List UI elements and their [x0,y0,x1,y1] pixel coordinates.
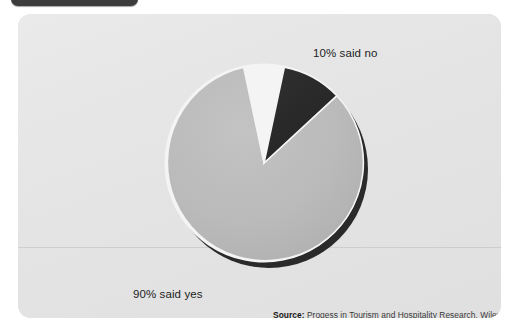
source-attribution: Source: Progess in Tourism and Hospitali… [273,310,501,318]
pie-chart: 10% said no 90% said yes [18,14,501,318]
pie-chart-svg [18,14,501,318]
pie-label-no: 10% said no [313,47,377,59]
cropped-tab-element [11,0,138,6]
pie-label-yes: 90% said yes [133,288,203,300]
figure-page: 10% said no 90% said yes Source: Progess… [0,0,516,325]
source-citation: Progess in Tourism and Hospitality Resea… [307,310,501,318]
figure-card: 10% said no 90% said yes Source: Progess… [18,14,501,318]
source-label: Source: [273,310,305,318]
